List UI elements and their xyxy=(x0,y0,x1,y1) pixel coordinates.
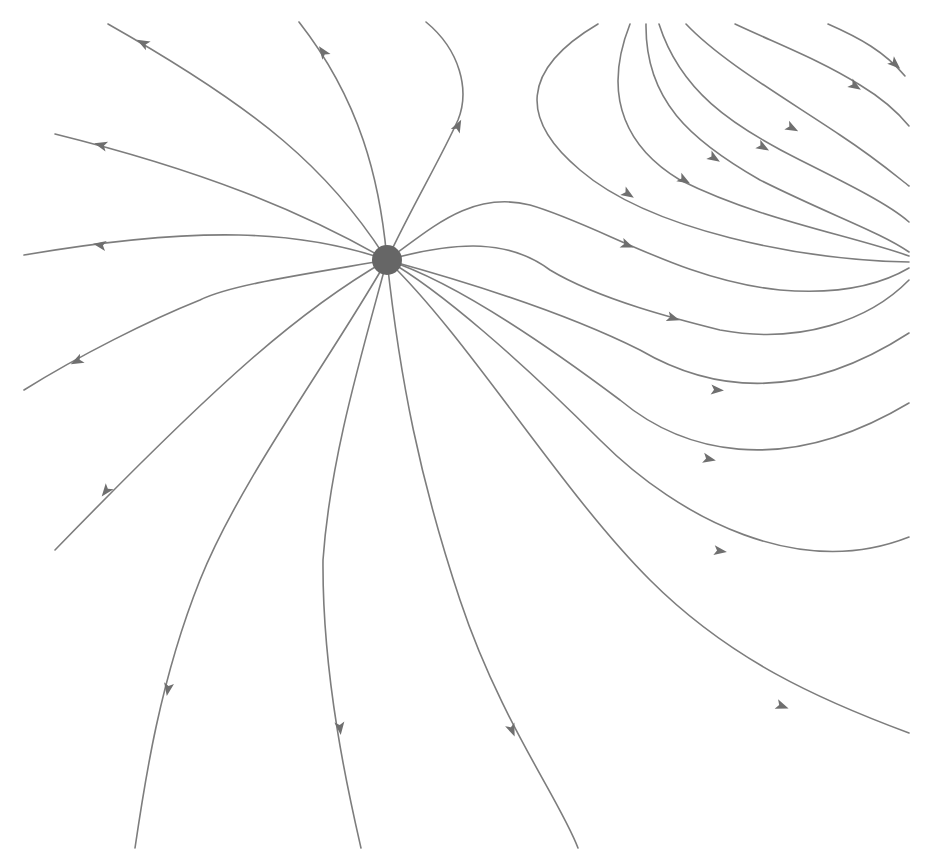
streamline-nw-1 xyxy=(108,24,387,260)
streamline-sw-2 xyxy=(55,260,387,550)
arrowhead-icon xyxy=(620,187,636,202)
streamline-w-2 xyxy=(24,235,387,260)
streamline-w-1 xyxy=(55,134,387,260)
arrowhead-icon xyxy=(666,311,681,325)
phase-portrait-canvas xyxy=(0,0,929,868)
arrowhead-icon xyxy=(711,384,725,395)
arrowhead-icon xyxy=(702,453,717,465)
streamline-se-1 xyxy=(387,260,909,733)
streamline-e-3 xyxy=(387,260,909,384)
arrowhead-icon xyxy=(706,151,722,166)
streamline-ne-6 xyxy=(735,24,909,126)
arrowhead-icon xyxy=(775,699,791,713)
arrowhead-icon xyxy=(887,56,903,72)
streamlines-group xyxy=(24,22,909,848)
source-node xyxy=(372,245,402,275)
streamline-e-1 xyxy=(387,260,909,551)
streamline-ne-7 xyxy=(828,24,905,76)
arrowheads-group xyxy=(68,35,903,738)
streamline-ne-5 xyxy=(686,24,909,186)
streamline-n-2 xyxy=(387,22,463,260)
arrowhead-icon xyxy=(620,238,636,252)
streamline-n-1 xyxy=(299,22,387,260)
arrowhead-icon xyxy=(713,545,727,557)
arrowhead-icon xyxy=(334,722,345,736)
streamline-s-1 xyxy=(135,260,387,848)
arrowhead-icon xyxy=(755,140,771,155)
arrowhead-icon xyxy=(784,121,800,136)
streamline-sw-1 xyxy=(24,260,387,390)
arrowhead-icon xyxy=(98,483,114,499)
